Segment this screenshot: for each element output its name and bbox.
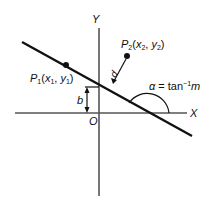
origin-label: O	[89, 115, 98, 127]
intercept-arrowhead-up-icon	[85, 87, 90, 93]
distance-label: d	[108, 69, 121, 80]
intercept-label: b	[77, 94, 83, 106]
x-axis-label: X	[189, 107, 198, 119]
point-p2	[124, 53, 130, 59]
y-axis-label: Y	[92, 13, 100, 25]
point-p2-label: P2(x2, y2)	[121, 38, 165, 51]
point-p1-label: P1(x1, y1)	[30, 72, 74, 85]
intercept-arrowhead-down-icon	[85, 107, 90, 113]
point-p1	[63, 62, 69, 68]
line-distance-diagram: Y X O b d P1(x1, y1) P2(x2, y2) α = tan−…	[0, 0, 210, 205]
angle-label: α = tan−1m	[149, 80, 200, 92]
